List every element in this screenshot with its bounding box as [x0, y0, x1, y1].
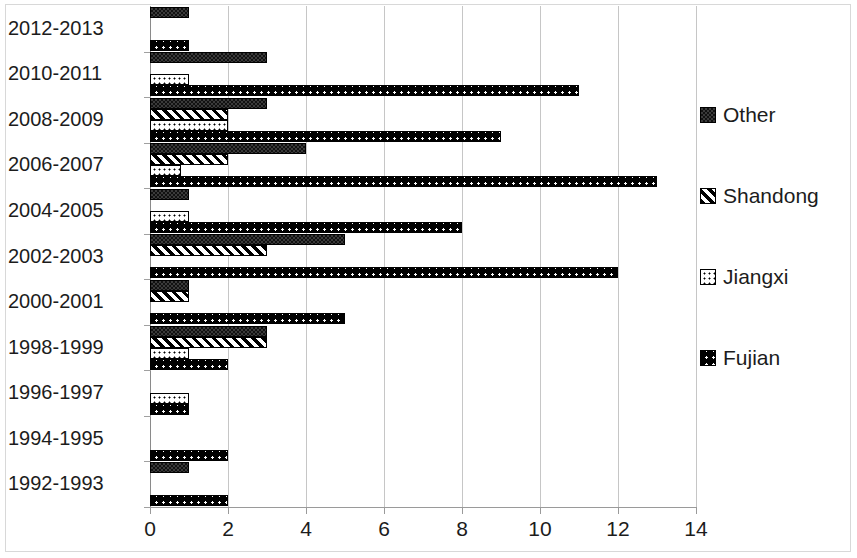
bar-Jiangxi-1996-1997: [150, 393, 189, 404]
bar-Shandong-2000-2001: [150, 291, 189, 302]
bar-group-1992-1993: [150, 461, 696, 507]
legend-label-Shandong: Shandong: [723, 185, 819, 206]
legend-swatch-Shandong-icon: [700, 188, 716, 204]
gridline-14: [696, 6, 697, 507]
bar-Fujian-2000-2001: [150, 313, 345, 324]
x-tick-label-4: 4: [286, 518, 326, 539]
bar-Shandong-2008-2009: [150, 109, 228, 120]
category-label-1992-1993: 1992-1993: [8, 473, 142, 493]
x-tick-4: [306, 507, 307, 514]
bar-chart: 2012-20132010-20112008-20092006-20072004…: [0, 0, 857, 558]
bar-Other-2004-2005: [150, 189, 189, 200]
category-label-2012-2013: 2012-2013: [8, 18, 142, 38]
legend-label-Jiangxi: Jiangxi: [723, 266, 788, 287]
bar-Other-2010-2011: [150, 52, 267, 63]
category-label-1996-1997: 1996-1997: [8, 382, 142, 402]
category-label-2010-2011: 2010-2011: [8, 63, 142, 83]
x-tick-label-2: 2: [208, 518, 248, 539]
bar-group-2010-2011: [150, 52, 696, 98]
bar-Other-1998-1999: [150, 326, 267, 337]
bar-group-2012-2013: [150, 6, 696, 52]
x-tick-14: [696, 507, 697, 514]
bar-group-1998-1999: [150, 325, 696, 371]
legend-item-Jiangxi[interactable]: Jiangxi: [700, 266, 788, 287]
x-axis-line: [150, 507, 697, 508]
bar-Other-2008-2009: [150, 98, 267, 109]
x-tick-12: [618, 507, 619, 514]
legend-swatch-Jiangxi-icon: [700, 269, 716, 285]
bar-group-1994-1995: [150, 416, 696, 462]
bar-Shandong-1998-1999: [150, 337, 267, 348]
x-tick-label-12: 12: [598, 518, 638, 539]
x-tick-2: [228, 507, 229, 514]
bar-Fujian-1994-1995: [150, 450, 228, 461]
bar-group-2006-2007: [150, 143, 696, 189]
x-tick-label-10: 10: [520, 518, 560, 539]
x-tick-6: [384, 507, 385, 514]
x-tick-label-6: 6: [364, 518, 404, 539]
legend-label-Fujian: Fujian: [723, 347, 780, 368]
bar-Shandong-2006-2007: [150, 154, 228, 165]
bar-group-1996-1997: [150, 370, 696, 416]
x-tick-label-0: 0: [130, 518, 170, 539]
bar-Fujian-2010-2011: [150, 85, 579, 96]
legend-item-Other[interactable]: Other: [700, 104, 776, 125]
bar-Other-2002-2003: [150, 234, 345, 245]
bar-Fujian-1998-1999: [150, 359, 228, 370]
category-label-2000-2001: 2000-2001: [8, 291, 142, 311]
bar-Fujian-2012-2013: [150, 40, 189, 51]
bar-group-2004-2005: [150, 188, 696, 234]
bar-Other-1992-1993: [150, 462, 189, 473]
legend-item-Shandong[interactable]: Shandong: [700, 185, 819, 206]
bar-Jiangxi-2008-2009: [150, 120, 228, 131]
bar-Fujian-2006-2007: [150, 176, 657, 187]
y-tick-10: [144, 507, 151, 508]
category-label-1994-1995: 1994-1995: [8, 428, 142, 448]
legend-label-Other: Other: [723, 104, 776, 125]
bar-Other-2000-2001: [150, 280, 189, 291]
bar-Fujian-2008-2009: [150, 131, 501, 142]
x-tick-8: [462, 507, 463, 514]
bar-Jiangxi-2004-2005: [150, 211, 189, 222]
legend-swatch-Other-icon: [700, 107, 716, 123]
bar-Fujian-2002-2003: [150, 267, 618, 278]
bar-Jiangxi-1998-1999: [150, 348, 189, 359]
category-label-2002-2003: 2002-2003: [8, 246, 142, 266]
x-tick-label-14: 14: [676, 518, 716, 539]
x-tick-0: [150, 507, 151, 514]
bar-Other-2012-2013: [150, 7, 189, 18]
bar-Fujian-1992-1993: [150, 495, 228, 506]
bar-Jiangxi-2006-2007: [150, 165, 181, 176]
bar-Other-2006-2007: [150, 143, 306, 154]
legend-swatch-Fujian-icon: [700, 350, 716, 366]
x-tick-10: [540, 507, 541, 514]
category-label-2004-2005: 2004-2005: [8, 200, 142, 220]
bar-group-2000-2001: [150, 279, 696, 325]
legend-item-Fujian[interactable]: Fujian: [700, 347, 780, 368]
category-label-2008-2009: 2008-2009: [8, 109, 142, 129]
category-label-2006-2007: 2006-2007: [8, 154, 142, 174]
plot-area: [150, 6, 696, 507]
x-tick-label-8: 8: [442, 518, 482, 539]
bar-Jiangxi-2010-2011: [150, 74, 189, 85]
category-label-1998-1999: 1998-1999: [8, 337, 142, 357]
bar-Shandong-2002-2003: [150, 245, 267, 256]
bar-group-2008-2009: [150, 97, 696, 143]
bar-Fujian-2004-2005: [150, 222, 462, 233]
bar-Fujian-1996-1997: [150, 404, 189, 415]
bar-group-2002-2003: [150, 234, 696, 280]
